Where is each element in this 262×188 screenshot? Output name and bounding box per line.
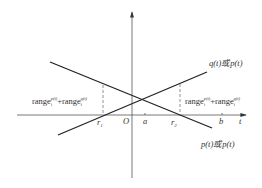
label-r2: r2 bbox=[171, 117, 177, 128]
label-r1: r1 bbox=[97, 117, 103, 128]
svg-text:rangeip(t)+rangeiq(t): rangeip(t)+rangeiq(t) bbox=[32, 96, 88, 107]
label-a: a bbox=[143, 116, 147, 126]
label-b: b bbox=[219, 116, 223, 126]
annotation-right: rangeip(t)+rangeiq(t) bbox=[185, 96, 241, 107]
lower-line-label: p(t)或p(t) bbox=[200, 139, 235, 149]
upper-line-label: q(t)或p(t) bbox=[209, 58, 243, 68]
annotation-left: rangeip(t)+rangeiq(t) bbox=[32, 96, 88, 107]
origin-label: O bbox=[123, 116, 129, 126]
decreasing-line bbox=[50, 62, 212, 128]
diagram-canvas: rangeip(t)+rangeiq(t) rangeip(t)+rangeiq… bbox=[0, 0, 262, 188]
label-t: t bbox=[239, 116, 242, 126]
svg-text:rangeip(t)+rangeiq(t): rangeip(t)+rangeiq(t) bbox=[185, 96, 241, 107]
